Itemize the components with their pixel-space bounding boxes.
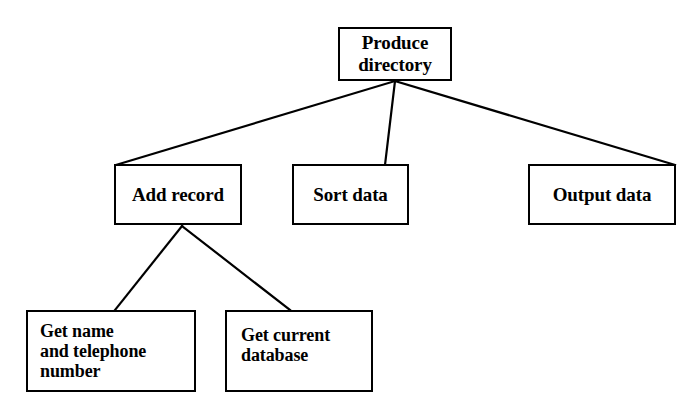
node-get-current-database-label: Get current database	[227, 325, 330, 377]
node-output-data[interactable]: Output data	[528, 164, 676, 225]
node-get-name-and-telephone-number-label: Get name and telephone number	[28, 321, 146, 381]
node-add-record-label: Add record	[132, 184, 224, 205]
edge-root-to-output-data	[395, 81, 675, 165]
node-output-data-label: Output data	[553, 184, 652, 205]
node-sort-data[interactable]: Sort data	[292, 164, 409, 225]
structure-chart-diagram: Produce directory Add record Sort data O…	[0, 0, 694, 406]
edge-add-record-to-get-database	[182, 226, 290, 310]
node-produce-directory-label: Produce directory	[358, 32, 432, 76]
node-get-current-database[interactable]: Get current database	[225, 310, 373, 392]
edge-add-record-to-get-name	[115, 226, 182, 310]
edge-root-to-sort-data	[385, 81, 395, 165]
node-add-record[interactable]: Add record	[114, 164, 242, 225]
edge-root-to-add-record	[116, 81, 395, 165]
node-sort-data-label: Sort data	[313, 184, 388, 205]
node-get-name-and-telephone-number[interactable]: Get name and telephone number	[26, 310, 196, 392]
node-produce-directory[interactable]: Produce directory	[338, 27, 452, 81]
